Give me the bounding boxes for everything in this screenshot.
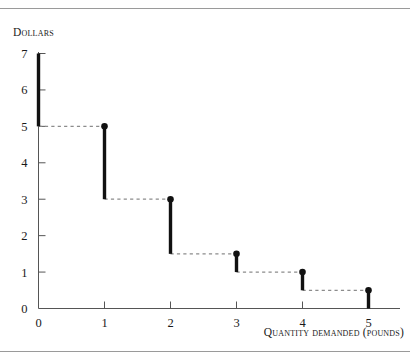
y-axis-tick-label: 4 (21, 156, 28, 170)
step-treads-group (39, 126, 369, 290)
axes-group (39, 52, 401, 309)
figure-page: Dollars Quantity demanded (pounds) 01234… (0, 0, 410, 362)
x-axis-tick-label: 5 (365, 316, 371, 330)
x-axis-tick-label: 3 (233, 316, 239, 330)
data-point-marker (167, 196, 174, 203)
data-point-marker (365, 287, 372, 294)
axis-titles-group: Dollars Quantity demanded (pounds) (13, 26, 404, 339)
y-axis-tick-label: 3 (21, 193, 27, 207)
y-axis-ticks-group: 01234567 (21, 47, 45, 316)
data-point-marker (233, 251, 240, 258)
y-axis-tick-label: 7 (21, 47, 27, 61)
demand-curve-figure: Dollars Quantity demanded (pounds) 01234… (0, 9, 410, 350)
y-axis-tick-label: 1 (21, 266, 27, 280)
x-axis-title: Quantity demanded (pounds) (264, 326, 404, 339)
y-axis-tick-label: 0 (21, 302, 27, 316)
x-axis-tick-label: 1 (101, 316, 107, 330)
data-point-marker (101, 123, 108, 130)
y-axis-title: Dollars (13, 26, 54, 38)
x-axis-tick-label: 0 (35, 316, 41, 330)
step-risers-group (39, 54, 369, 309)
page-rule-bottom (0, 351, 410, 352)
chart-canvas: Dollars Quantity demanded (pounds) 01234… (0, 9, 410, 350)
x-axis-tick-label: 4 (299, 316, 306, 330)
y-axis-tick-label: 2 (21, 229, 27, 243)
x-axis-tick-label: 2 (167, 316, 173, 330)
y-axis-tick-label: 5 (21, 120, 27, 134)
y-axis-tick-label: 6 (21, 83, 27, 97)
data-point-marker (299, 269, 306, 276)
